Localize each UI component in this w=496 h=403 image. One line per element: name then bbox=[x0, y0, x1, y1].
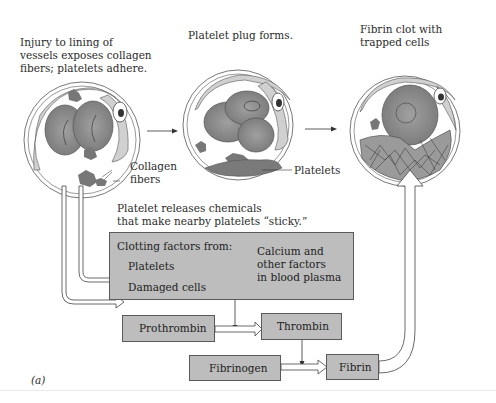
thrombin-box: Thrombin bbox=[261, 313, 342, 340]
source-platelets: Platelets bbox=[128, 260, 174, 272]
clotting-factors-title: Clotting factors from: bbox=[117, 240, 232, 252]
arrow-fibrin-to-clot bbox=[379, 170, 423, 373]
fibrin-box: Fibrin bbox=[326, 354, 379, 380]
prothrombin-label: Prothrombin bbox=[139, 322, 207, 334]
page-divider bbox=[0, 390, 496, 391]
fibrinogen-box: Fibrinogen bbox=[189, 355, 281, 381]
clotting-factors-box: Clotting factors from: Platelets Damaged… bbox=[109, 232, 354, 300]
callout-platelets: Platelets bbox=[294, 164, 340, 177]
plasma-factors: Calcium and other factors in blood plasm… bbox=[257, 245, 341, 284]
source-damaged-cells: Damaged cells bbox=[128, 281, 206, 293]
vessel-platelet-plug-illustration bbox=[183, 70, 293, 180]
prothrombin-box: Prothrombin bbox=[122, 315, 215, 342]
platelet-release-note: Platelet releases chemicals that make ne… bbox=[117, 202, 307, 228]
arrow-prothrombin-to-thrombin bbox=[215, 322, 262, 336]
vessel-fibrin-clot-illustration bbox=[350, 76, 460, 186]
panel-label: (a) bbox=[31, 374, 45, 387]
fibrinogen-label: Fibrinogen bbox=[209, 362, 268, 374]
vessel-injury-illustration bbox=[24, 82, 140, 198]
thrombin-label: Thrombin bbox=[277, 320, 329, 332]
fibrin-label: Fibrin bbox=[339, 361, 372, 373]
callout-collagen-fibers: Collagen fibers bbox=[130, 160, 177, 186]
